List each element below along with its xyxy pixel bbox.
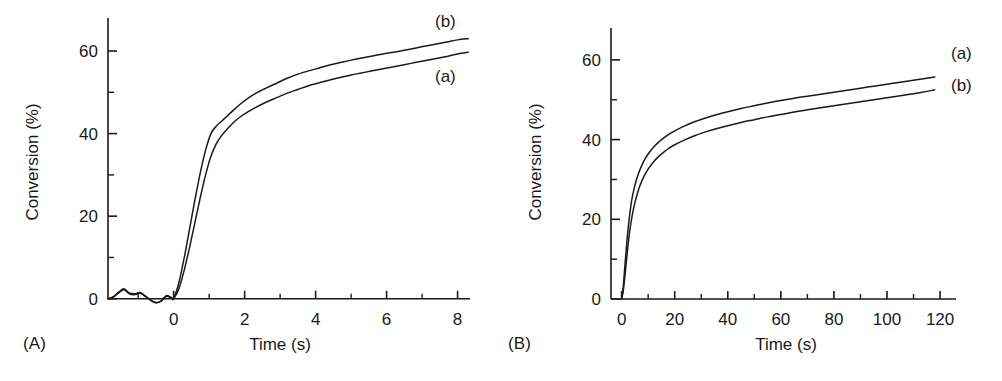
data-curve-upper [108,39,468,303]
y-tick-label: 0 [592,290,601,309]
x-tick-label: 4 [311,310,320,329]
x-tick-label: 20 [665,310,684,329]
x-tick-label: 60 [771,310,790,329]
y-tick-label: 20 [79,207,98,226]
x-tick-label: 120 [926,310,954,329]
panel-b-curve-label-upper: (a) [951,44,972,64]
x-tick-label: 80 [824,310,843,329]
panel-b-plot: 0204060801001200204060 [501,0,1002,381]
x-tick-label: 6 [382,310,391,329]
panel-b-curve-label-lower: (b) [951,76,972,96]
y-tick-label: 20 [582,210,601,229]
x-tick-label: 100 [873,310,901,329]
data-curve-lower [108,52,468,303]
y-tick-label: 60 [79,42,98,61]
y-tick-label: 60 [582,51,601,70]
x-tick-label: 0 [169,310,178,329]
panel-b-x-axis-title: Time (s) [696,335,876,355]
y-tick-label: 40 [79,125,98,144]
panel-a-curve-label-lower: (a) [435,67,456,87]
panel-a-tag: (A) [23,334,46,354]
y-tick-label: 0 [89,290,98,309]
panel-a-curve-label-upper: (b) [435,12,456,32]
panel-b-tag: (B) [508,334,531,354]
x-tick-label: 40 [718,310,737,329]
x-tick-label: 0 [617,310,626,329]
panel-a-plot: 024680204060 [0,0,501,381]
y-tick-label: 40 [582,131,601,150]
x-tick-label: 8 [453,310,462,329]
panel-b-y-axis-title: Conversion (%) [526,67,546,257]
figure-two-panel-kinetics: 024680204060 Conversion (%) Time (s) (A)… [0,0,1002,381]
data-curve-lower [622,90,935,299]
panel-a-y-axis-title: Conversion (%) [23,67,43,257]
panel-b: 0204060801001200204060 Conversion (%) Ti… [501,0,1002,381]
x-tick-label: 2 [240,310,249,329]
panel-a-x-axis-title: Time (s) [190,335,370,355]
data-curve-upper [622,77,935,299]
panel-a: 024680204060 Conversion (%) Time (s) (A)… [0,0,501,381]
